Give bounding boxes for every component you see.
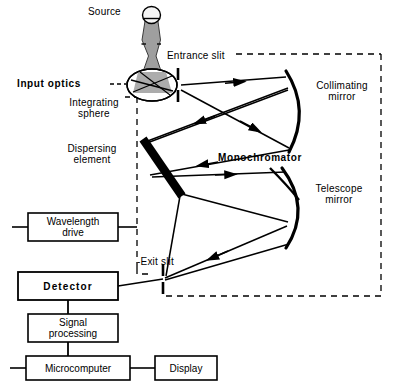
label-wavelength-drive: Wavelength drive xyxy=(28,213,118,241)
label-source: Source xyxy=(88,6,121,17)
label-input-optics: Input optics xyxy=(17,78,81,89)
telescope-mirror xyxy=(282,168,298,248)
label-detector: Detector xyxy=(18,272,118,300)
label-display: Display xyxy=(155,356,217,380)
label-monochromator: Monochromator xyxy=(218,152,302,163)
label-integrating-sphere: Integrating sphere xyxy=(60,97,128,119)
label-exit-slit: -Exit slit xyxy=(137,256,174,267)
dispersing-element xyxy=(143,139,182,196)
label-dispersing-element: Dispersing element xyxy=(55,143,129,165)
label-collimating-mirror: Collimating mirror xyxy=(307,80,377,102)
label-signal-processing: Signal processing xyxy=(28,314,118,342)
label-microcomputer: Microcomputer xyxy=(26,356,130,380)
collimating-mirror xyxy=(286,71,299,152)
label-telescope-mirror: Telescope mirror xyxy=(306,183,372,205)
spectrophotometer-diagram: Source Entrance slit Input optics Integr… xyxy=(0,0,394,388)
label-entrance-slit: Entrance slit xyxy=(167,50,225,61)
